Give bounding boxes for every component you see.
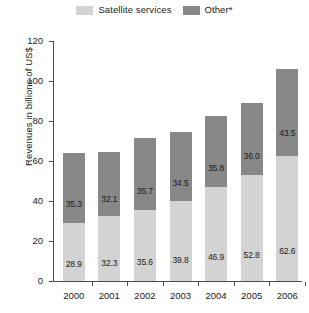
x-tick-label-2006: 2006 <box>277 290 298 301</box>
bar-group-2002[interactable]: 35.635.7 <box>134 41 156 281</box>
bar-segment-2006-other[interactable]: 43.5 <box>276 69 298 156</box>
y-tick-40: 40 <box>49 201 53 202</box>
y-tick-label-60: 60 <box>32 155 43 166</box>
y-tick-label-0: 0 <box>38 275 43 286</box>
x-tick-label-2000: 2000 <box>63 290 84 301</box>
y-tick-label-20: 20 <box>32 235 43 246</box>
bar-group-2006[interactable]: 62.643.5 <box>276 41 298 281</box>
bar-segment-2001-satellite-services[interactable]: 32.3 <box>98 216 120 281</box>
x-tick-label-2001: 2001 <box>99 290 120 301</box>
bar-segment-2002-other[interactable]: 35.7 <box>134 138 156 209</box>
bar-value-2006-satellite-services: 62.6 <box>276 247 298 256</box>
legend-item-satellite-services[interactable]: Satellite services <box>76 5 171 15</box>
legend-swatch-satellite-services <box>76 6 93 15</box>
bar-value-2000-other: 35.3 <box>63 200 85 209</box>
legend-label-satellite-services: Satellite services <box>98 5 171 15</box>
bar-segment-2004-other[interactable]: 35.8 <box>205 116 227 188</box>
x-tick-label-2003: 2003 <box>170 290 191 301</box>
bar-group-2005[interactable]: 52.836.0 <box>241 41 263 281</box>
x-tick-2004 <box>234 282 235 286</box>
bar-group-2003[interactable]: 39.834.5 <box>170 41 192 281</box>
legend-swatch-other <box>183 6 200 15</box>
bar-value-2004-other: 35.8 <box>205 164 227 173</box>
bar-value-2002-other: 35.7 <box>134 187 156 196</box>
plot-area: 020406080100120 200020012002200320042005… <box>53 41 302 281</box>
bar-segment-2005-satellite-services[interactable]: 52.8 <box>241 175 263 281</box>
x-tick-label-2004: 2004 <box>205 290 226 301</box>
bar-segment-2000-other[interactable]: 35.3 <box>63 153 85 224</box>
x-tick-label-2005: 2005 <box>241 290 262 301</box>
y-tick-100: 100 <box>49 81 53 82</box>
bar-value-2001-satellite-services: 32.3 <box>98 259 120 268</box>
bar-group-2004[interactable]: 46.935.8 <box>205 41 227 281</box>
y-tick-label-120: 120 <box>27 35 43 46</box>
x-tick-label-2002: 2002 <box>134 290 155 301</box>
bar-value-2001-other: 32.1 <box>98 195 120 204</box>
x-tick-2000 <box>92 282 93 286</box>
y-tick-label-100: 100 <box>27 75 43 86</box>
y-tick-60: 60 <box>49 161 53 162</box>
bar-value-2003-satellite-services: 39.8 <box>170 256 192 265</box>
x-axis-line <box>53 281 302 282</box>
legend-label-other: Other* <box>205 5 233 15</box>
bar-segment-2003-other[interactable]: 34.5 <box>170 132 192 201</box>
bar-segment-2004-satellite-services[interactable]: 46.9 <box>205 187 227 281</box>
x-tick-2006 <box>305 282 306 286</box>
bar-value-2005-satellite-services: 52.8 <box>241 251 263 260</box>
bar-segment-2001-other[interactable]: 32.1 <box>98 152 120 216</box>
x-tick-2001 <box>127 282 128 286</box>
legend-item-other[interactable]: Other* <box>183 5 233 15</box>
stacked-bar-chart: Satellite services Other* Revenues in bi… <box>0 0 309 313</box>
x-tick-2005 <box>269 282 270 286</box>
y-tick-20: 20 <box>49 241 53 242</box>
bar-value-2004-satellite-services: 46.9 <box>205 253 227 262</box>
y-tick-label-40: 40 <box>32 195 43 206</box>
y-tick-120: 120 <box>49 41 53 42</box>
bar-group-2001[interactable]: 32.332.1 <box>98 41 120 281</box>
x-tick-2003 <box>198 282 199 286</box>
bar-group-2000[interactable]: 28.935.3 <box>63 41 85 281</box>
bar-value-2006-other: 43.5 <box>276 129 298 138</box>
y-tick-label-80: 80 <box>32 115 43 126</box>
y-axis-line <box>53 41 54 282</box>
bar-value-2000-satellite-services: 28.9 <box>63 260 85 269</box>
y-tick-0: 0 <box>49 281 53 282</box>
x-tick-2002 <box>163 282 164 286</box>
bar-segment-2002-satellite-services[interactable]: 35.6 <box>134 210 156 281</box>
chart-legend: Satellite services Other* <box>0 5 309 15</box>
bar-value-2003-other: 34.5 <box>170 179 192 188</box>
bar-value-2005-other: 36.0 <box>241 152 263 161</box>
bar-value-2002-satellite-services: 35.6 <box>134 258 156 267</box>
y-tick-80: 80 <box>49 121 53 122</box>
bar-segment-2003-satellite-services[interactable]: 39.8 <box>170 201 192 281</box>
bar-segment-2000-satellite-services[interactable]: 28.9 <box>63 223 85 281</box>
bar-segment-2006-satellite-services[interactable]: 62.6 <box>276 156 298 281</box>
bar-segment-2005-other[interactable]: 36.0 <box>241 103 263 175</box>
